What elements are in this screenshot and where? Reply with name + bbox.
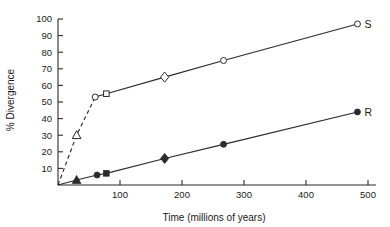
y-tick-label: 20: [41, 146, 52, 157]
marker-circle-S: [221, 58, 227, 64]
x-tick-label: 500: [360, 189, 376, 200]
y-axis-title: % Divergence: [5, 68, 16, 131]
x-tick-label: 300: [236, 189, 252, 200]
marker-square-S: [104, 91, 110, 97]
data-markers: [72, 21, 360, 183]
y-tick-label: 60: [41, 80, 52, 91]
y-tick-label: 70: [41, 63, 52, 74]
marker-diamond-S: [161, 72, 169, 82]
y-tick-label: 10: [41, 163, 52, 174]
marker-square-R: [104, 171, 110, 177]
chart-canvas: 100200300400500 102030405060708090100 SR…: [0, 0, 390, 227]
marker-triangle-S: [72, 131, 81, 139]
x-axis-title: Time (millions of years): [163, 212, 266, 223]
series-labels: SR: [364, 18, 372, 118]
y-tick-label: 40: [41, 113, 52, 124]
y-axis-tick-labels: 102030405060708090100: [36, 13, 52, 173]
marker-circle-R: [221, 141, 227, 147]
x-tick-label: 400: [298, 189, 314, 200]
data-series: [58, 24, 357, 185]
y-tick-label: 100: [36, 13, 52, 24]
x-axis-tick-labels: 100200300400500: [112, 189, 376, 200]
y-tick-label: 80: [41, 47, 52, 58]
y-tick-label: 50: [41, 96, 52, 107]
series-label-R: R: [364, 106, 372, 118]
x-tick-label: 100: [112, 189, 128, 200]
marker-circle-S: [92, 94, 98, 100]
series-line-R: [58, 112, 357, 185]
marker-circle-R: [354, 109, 360, 115]
divergence-time-chart: 100200300400500 102030405060708090100 SR…: [0, 0, 390, 227]
series-line-S: [58, 97, 95, 185]
marker-circle-S: [354, 21, 360, 27]
marker-diamond-R: [161, 153, 169, 163]
x-axis-ticks: [120, 180, 368, 185]
y-tick-label: 30: [41, 130, 52, 141]
series-label-S: S: [364, 18, 371, 30]
y-axis-ticks: [58, 19, 63, 168]
axes: [58, 19, 376, 185]
marker-circle-R: [94, 172, 100, 178]
y-tick-label: 90: [41, 30, 52, 41]
x-tick-label: 200: [174, 189, 190, 200]
